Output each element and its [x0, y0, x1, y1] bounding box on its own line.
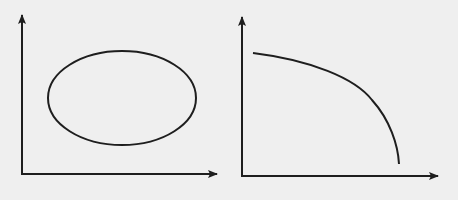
- ellipse-shape: [48, 51, 196, 145]
- right-diagram: [241, 17, 438, 176]
- concave-curve: [253, 53, 399, 164]
- diagram-canvas: [0, 0, 458, 200]
- left-diagram: [21, 15, 217, 174]
